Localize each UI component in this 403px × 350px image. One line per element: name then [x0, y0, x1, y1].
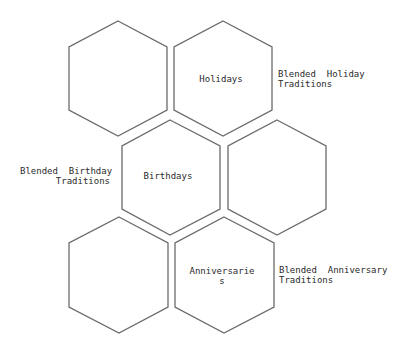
hexagon-label-birthdays: Birthdays	[144, 171, 193, 181]
annotation-blended-birthday-traditions: Blended Birthday Traditions	[20, 166, 110, 186]
annotation-blended-holiday-traditions: Blended Holiday Traditions	[278, 69, 365, 89]
hexagon-label-anniversaries: Anniversarie s	[189, 266, 254, 286]
hexagon-label-holidays: Holidays	[199, 74, 242, 84]
hexagon-bottom-left	[69, 217, 168, 333]
hexagon-top-left	[69, 21, 167, 136]
hexagon-middle-right	[228, 120, 326, 235]
annotation-blended-anniversary-traditions: Blended Anniversary Traditions	[279, 265, 387, 285]
